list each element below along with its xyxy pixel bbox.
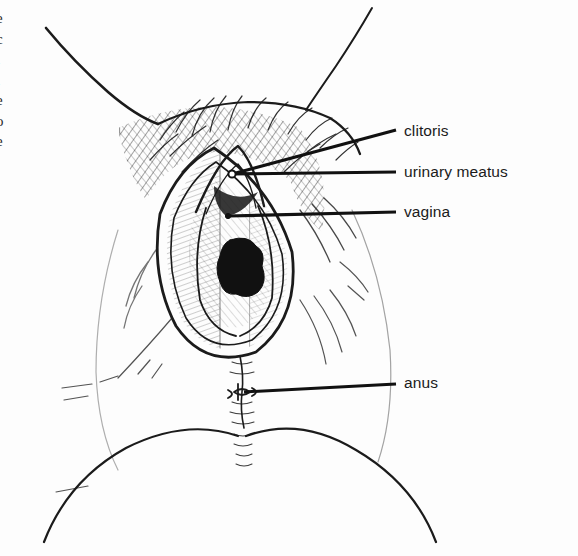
fold-strokes-left: [124, 250, 156, 328]
label-anus: anus: [404, 374, 438, 392]
illustration-page: e c l l e o e: [0, 0, 578, 556]
figure-linework: [44, 8, 436, 542]
perineum-midline: [240, 356, 244, 428]
buttock-arc-left: [44, 429, 238, 542]
thigh-contour-left: [96, 230, 118, 470]
vaginal-orifice: [217, 238, 264, 297]
label-clitoris: clitoris: [404, 122, 449, 140]
thigh-contour-right: [352, 210, 391, 462]
leader-dot-clitoris: [228, 170, 235, 177]
groin-crease-left: [46, 28, 158, 124]
leader-line-anus: [244, 384, 396, 392]
buttock-arc-right: [246, 429, 436, 542]
label-urinary-meatus: urinary meatus: [404, 163, 508, 181]
leader-dot-vagina: [225, 213, 230, 218]
anatomical-illustration: [0, 0, 578, 556]
leader-line-urinary-meatus: [232, 172, 396, 174]
label-vagina: vagina: [404, 203, 450, 221]
groin-crease-right: [306, 8, 372, 110]
